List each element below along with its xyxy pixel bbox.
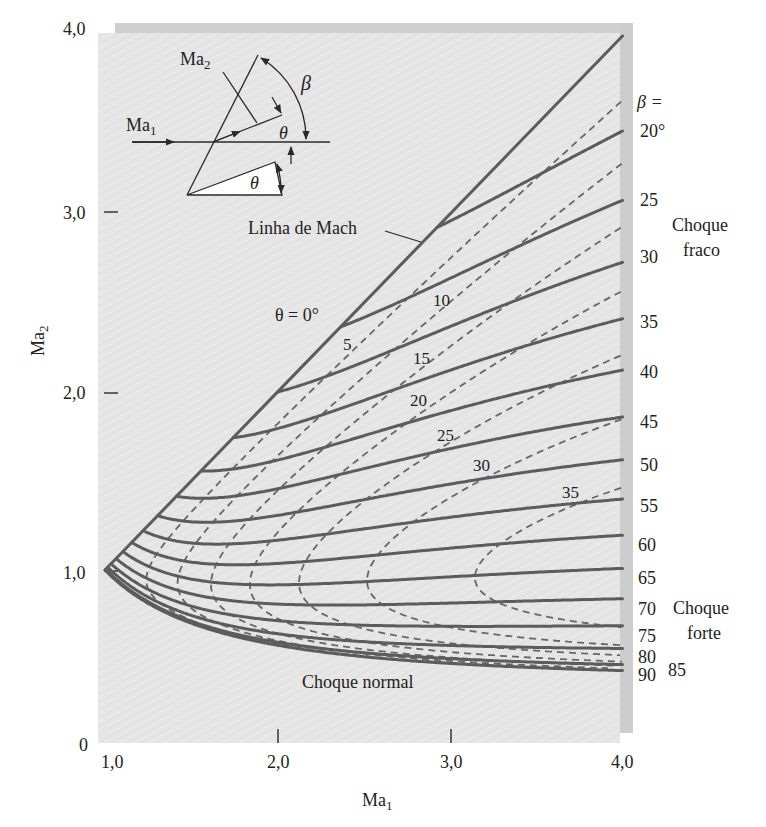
theta-label-35: 35: [562, 483, 579, 502]
y-tick-label-1: 1,0: [63, 563, 86, 583]
x-tick-label-4: 4,0: [611, 752, 634, 772]
theta-label-30: 30: [473, 456, 490, 475]
beta-label-80: 80: [638, 647, 656, 667]
beta-label-25: 25: [640, 190, 658, 210]
beta-label-70: 70: [638, 599, 656, 619]
inset-theta-flow-label: θ: [279, 123, 288, 143]
theta-label-10: 10: [433, 291, 450, 310]
y-tick-label-2: 2,0: [63, 383, 86, 403]
weak-shock-label-line1: Choque: [672, 215, 728, 235]
beta-label-75: 75: [638, 626, 656, 646]
y-tick-label-4: 4,0: [63, 19, 86, 39]
theta-label-15: 15: [413, 349, 430, 368]
plot-background: [98, 23, 633, 743]
x-axis-title: Ma1: [362, 790, 393, 813]
inset-ma2-sub: 2: [204, 57, 211, 72]
inset-ma1-main: Ma: [126, 115, 150, 135]
x-axis-title-sub: 1: [386, 798, 393, 813]
x-tick-label-1: 1,0: [101, 752, 124, 772]
theta-label-20: 20: [410, 391, 427, 410]
normal-shock-label: Choque normal: [302, 672, 413, 692]
mach-line-label: Linha de Mach: [248, 218, 357, 238]
inset-ma1-sub: 1: [150, 123, 157, 138]
inset-ma2-main: Ma: [180, 49, 204, 69]
inset-beta-label: β: [300, 72, 311, 95]
beta-label-65: 65: [638, 568, 656, 588]
beta-label-40: 40: [640, 362, 658, 382]
oblique-shock-chart: 4,0 3,0 2,0 1,0 0 Ma2 1,0 2,0 3,0 4,0 Ma…: [0, 0, 766, 827]
y-tick-label-3: 3,0: [63, 203, 86, 223]
beta-label-35: 35: [640, 312, 658, 332]
strong-shock-label-line1: Choque: [673, 598, 729, 618]
theta-label-25: 25: [437, 426, 454, 445]
beta-label-30: 30: [640, 247, 658, 267]
beta-label-45: 45: [640, 412, 658, 432]
beta-label-85: 85: [668, 660, 686, 680]
beta-label-90: 90: [638, 665, 656, 685]
inset-theta-wedge-label: θ: [250, 173, 259, 193]
weak-shock-label-line2: fraco: [683, 240, 720, 260]
theta-label-5: 5: [343, 335, 352, 354]
y-axis-title-sub: 2: [36, 326, 51, 333]
theta-zero-label: θ = 0°: [275, 305, 319, 325]
y-axis-title-main: Ma: [28, 332, 48, 356]
y-tick-label-0: 0: [79, 735, 88, 755]
strong-shock-label-line2: forte: [687, 623, 721, 643]
beta-label-60: 60: [638, 535, 656, 555]
beta-header-label: β =: [636, 92, 663, 112]
beta-label-50: 50: [640, 455, 658, 475]
beta-label-55: 55: [640, 496, 658, 516]
x-tick-label-3: 3,0: [440, 752, 463, 772]
y-axis-title: Ma2: [28, 326, 51, 357]
x-tick-label-2: 2,0: [267, 752, 290, 772]
beta-label-20: 20°: [640, 121, 665, 141]
x-axis-title-main: Ma: [362, 790, 386, 810]
